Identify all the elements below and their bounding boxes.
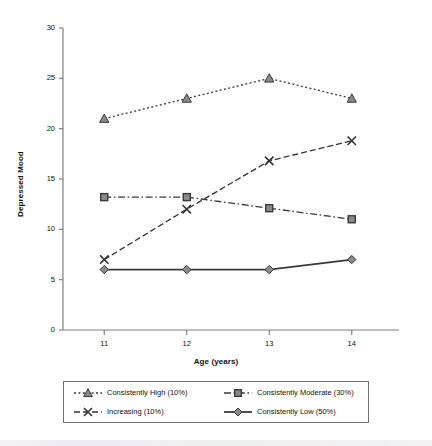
y-axis-tick-label: 20	[29, 124, 55, 133]
chart-figure: Depressed Mood Age (years) 051015202530 …	[0, 0, 432, 446]
legend-row: Increasing (10%)	[72, 402, 164, 421]
legend-row: Consistently Moderate (30%)	[222, 383, 354, 402]
legend-item-consistently-moderate[interactable]: Consistently Moderate (30%)	[222, 383, 354, 402]
legend-label: Consistently Moderate (30%)	[254, 388, 354, 397]
legend-item-consistently-low[interactable]: Consistently Low (50%)	[222, 402, 336, 421]
legend-marker-triangle-icon	[72, 386, 104, 400]
legend-marker-square-icon	[222, 386, 254, 400]
y-axis-tick-label: 10	[29, 224, 55, 233]
x-axis-tick-label: 11	[90, 339, 118, 348]
page-edge-artifact	[0, 440, 432, 446]
y-axis-tick-label: 5	[29, 275, 55, 284]
y-axis-tick-label: 25	[29, 73, 55, 82]
y-axis-tick-label: 15	[29, 174, 55, 183]
legend-label: Increasing (10%)	[104, 407, 164, 416]
x-axis-tick-label: 12	[173, 339, 201, 348]
x-axis-tick-label: 13	[255, 339, 283, 348]
legend-item-increasing[interactable]: Increasing (10%)	[72, 402, 164, 421]
y-axis-label: Depressed Mood	[16, 151, 25, 217]
data-series	[100, 137, 356, 264]
legend-item-consistently-high[interactable]: Consistently High (10%)	[72, 383, 187, 402]
data-series	[100, 74, 357, 123]
chart-plot-area	[0, 0, 432, 446]
y-axis-tick-label: 0	[29, 325, 55, 334]
legend-row: Consistently High (10%)	[72, 383, 187, 402]
axes	[59, 28, 399, 335]
legend-row: Consistently Low (50%)	[222, 402, 336, 421]
legend-label: Consistently High (10%)	[104, 388, 187, 397]
data-series	[100, 255, 356, 273]
x-axis-label: Age (years)	[0, 357, 432, 366]
legend-label: Consistently Low (50%)	[254, 407, 336, 416]
data-series-group	[100, 74, 357, 274]
data-series	[101, 194, 356, 223]
legend-marker-x-icon	[72, 405, 104, 419]
x-axis-tick-label: 14	[338, 339, 366, 348]
y-axis-tick-label: 30	[29, 23, 55, 32]
legend-marker-diamond-icon	[222, 405, 254, 419]
chart-legend: Consistently High (10%) Consistently Mod…	[63, 381, 369, 423]
